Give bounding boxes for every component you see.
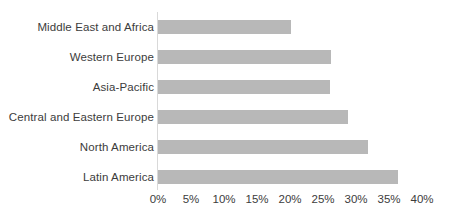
- x-tick-label: 35%: [377, 193, 400, 205]
- bar-asia-pacific: [158, 80, 330, 94]
- category-label: Asia-Pacific: [93, 81, 154, 93]
- category-label: Central and Eastern Europe: [9, 111, 154, 123]
- plot-area: Middle East and Africa Western Europe As…: [0, 0, 461, 224]
- x-tick-label: 5%: [183, 193, 200, 205]
- bar-chart: Middle East and Africa Western Europe As…: [0, 0, 461, 224]
- category-label: Western Europe: [70, 51, 154, 63]
- bar-middle-east-and-africa: [158, 20, 291, 34]
- x-tick-label: 40%: [410, 193, 433, 205]
- category-label: North America: [80, 141, 154, 153]
- bar-row: Middle East and Africa: [0, 12, 461, 42]
- bar-rows: Middle East and Africa Western Europe As…: [0, 0, 461, 190]
- bar-row: North America: [0, 132, 461, 162]
- x-tick-label: 30%: [344, 193, 367, 205]
- x-axis: 0%5%10%15%20%25%30%35%40%: [0, 190, 461, 224]
- x-tick-label: 20%: [278, 193, 301, 205]
- bar-latin-america: [158, 170, 398, 184]
- x-tick-label: 0%: [150, 193, 167, 205]
- bar-north-america: [158, 140, 368, 154]
- bar-row: Central and Eastern Europe: [0, 102, 461, 132]
- category-label: Latin America: [83, 171, 154, 183]
- bar-western-europe: [158, 50, 331, 64]
- x-tick-label: 25%: [311, 193, 334, 205]
- x-tick-label: 10%: [212, 193, 235, 205]
- x-tick-label: 15%: [245, 193, 268, 205]
- bar-row: Latin America: [0, 162, 461, 192]
- bar-row: Western Europe: [0, 42, 461, 72]
- bar-central-and-eastern-europe: [158, 110, 348, 124]
- category-label: Middle East and Africa: [37, 21, 154, 33]
- bar-row: Asia-Pacific: [0, 72, 461, 102]
